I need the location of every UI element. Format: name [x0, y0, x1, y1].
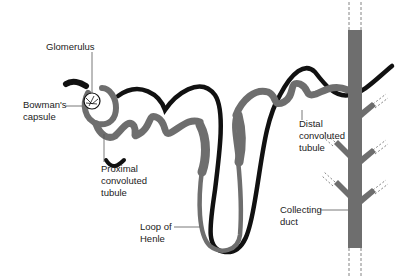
- label-proximal-3: tubule: [101, 187, 127, 198]
- label-loop-of-henle-1: Loop of: [140, 221, 172, 232]
- label-collecting-duct-1: Collecting: [280, 204, 322, 215]
- label-bowmans-capsule-1: Bowman's: [23, 99, 67, 110]
- collecting-duct: [348, 30, 362, 248]
- label-proximal-1: Proximal: [101, 163, 138, 174]
- label-distal-1: Distal: [299, 118, 323, 129]
- label-collecting-duct-2: duct: [280, 216, 298, 227]
- label-glomerulus: Glomerulus: [46, 41, 95, 52]
- glomerulus-icon: [84, 93, 100, 109]
- nephron-diagram: Glomerulus Bowman's capsule Proximal con…: [0, 0, 412, 280]
- label-distal-3: tubule: [299, 142, 325, 153]
- label-distal-2: convoluted: [299, 130, 345, 141]
- label-proximal-2: convoluted: [101, 175, 147, 186]
- label-loop-of-henle-2: Henle: [140, 233, 165, 244]
- label-bowmans-capsule-2: capsule: [23, 111, 56, 122]
- diagram-canvas: Glomerulus Bowman's capsule Proximal con…: [0, 0, 412, 280]
